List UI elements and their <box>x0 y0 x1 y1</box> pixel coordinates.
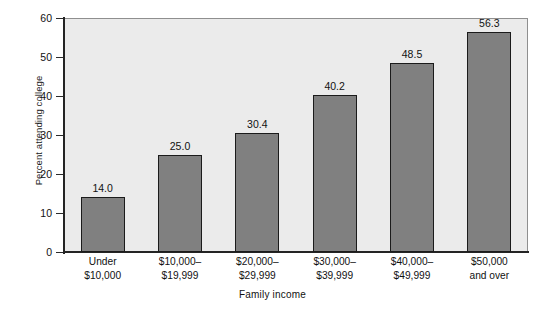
y-axis-tick: 30 <box>40 129 64 141</box>
x-axis-category-label-line: $10,000 <box>64 269 141 283</box>
x-axis-category-label: $40,000–$49,999 <box>373 255 450 282</box>
x-axis-category-label-line: $29,999 <box>219 269 296 283</box>
x-axis-category-label-line: $10,000– <box>141 255 218 269</box>
x-axis-category-label-line: $49,999 <box>373 269 450 283</box>
bar-slot: 40.2 <box>313 18 357 252</box>
x-axis-category-label-line: $19,999 <box>141 269 218 283</box>
bar-slot: 56.3 <box>467 18 511 252</box>
bar[interactable] <box>390 63 434 252</box>
y-axis-tick: 50 <box>40 51 64 63</box>
y-axis-tick: 20 <box>40 168 64 180</box>
x-axis-category-label: $10,000–$19,999 <box>141 255 218 282</box>
bar-slot: 48.5 <box>390 18 434 252</box>
bar[interactable] <box>81 197 125 252</box>
x-axis-category-label-line: $39,999 <box>296 269 373 283</box>
y-axis-tick-label: 0 <box>46 246 52 258</box>
y-axis-tick: 40 <box>40 90 64 102</box>
bar-value-label: 14.0 <box>92 182 112 194</box>
bar-slot: 25.0 <box>158 18 202 252</box>
x-axis-category-label-line: $30,000– <box>296 255 373 269</box>
x-axis-category-label: $20,000–$29,999 <box>219 255 296 282</box>
x-axis-category-label: $50,000and over <box>451 255 528 282</box>
x-axis-category-labels: Under$10,000$10,000–$19,999$20,000–$29,9… <box>64 255 528 287</box>
bar-chart-figure: Percent attending college 0102030405060 … <box>0 0 545 312</box>
y-axis-tick: 0 <box>46 246 64 258</box>
bar[interactable] <box>158 155 202 253</box>
bar-slot: 14.0 <box>81 18 125 252</box>
bar-slot: 30.4 <box>235 18 279 252</box>
y-axis-tick: 60 <box>40 12 64 24</box>
x-axis-category-label-line: $40,000– <box>373 255 450 269</box>
y-axis-tick-label: 20 <box>40 168 52 180</box>
x-axis-category-label-line: and over <box>451 269 528 283</box>
bar[interactable] <box>313 95 357 252</box>
y-axis-ticks: 0102030405060 <box>28 0 64 312</box>
y-axis-tick-label: 10 <box>40 207 52 219</box>
bar-value-label: 48.5 <box>402 48 422 60</box>
bar[interactable] <box>235 133 279 252</box>
y-axis-tick-label: 40 <box>40 90 52 102</box>
x-axis-category-label: $30,000–$39,999 <box>296 255 373 282</box>
x-axis-category-label-line: $50,000 <box>451 255 528 269</box>
bar-value-label: 30.4 <box>247 118 267 130</box>
bar-value-label: 56.3 <box>479 17 499 29</box>
bar[interactable] <box>467 32 511 252</box>
x-axis-category-label-line: Under <box>64 255 141 269</box>
bar-series: 14.025.030.440.248.556.3 <box>64 18 528 252</box>
bar-value-label: 25.0 <box>170 140 190 152</box>
y-axis-tick-label: 30 <box>40 129 52 141</box>
y-axis-tick-label: 60 <box>40 12 52 24</box>
x-axis-category-label-line: $20,000– <box>219 255 296 269</box>
y-axis-tick-label: 50 <box>40 51 52 63</box>
x-axis-title: Family income <box>0 289 545 300</box>
bar-value-label: 40.2 <box>324 80 344 92</box>
x-axis-category-label: Under$10,000 <box>64 255 141 282</box>
y-axis-tick: 10 <box>40 207 64 219</box>
